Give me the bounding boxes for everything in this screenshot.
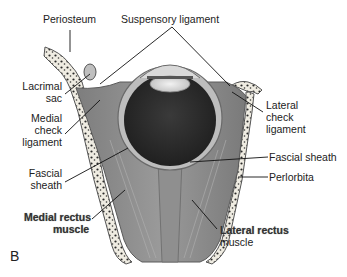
- label-lateral-rectus-line1: Lateral rectus: [220, 224, 289, 236]
- label-fascial-sheath-left-line1: Fascial: [16, 167, 62, 179]
- eyeball: [118, 65, 222, 170]
- label-lateral-check-line1: Lateral: [266, 99, 298, 111]
- label-periosteum: Periosteum: [43, 13, 96, 25]
- label-suspensory-ligament: Suspensory ligament: [121, 13, 219, 25]
- orbit-diagram: Periosteum Suspensory ligament Lacrimal …: [0, 0, 347, 277]
- label-lacrimal-sac-line2: sac: [22, 92, 62, 104]
- label-medial-rectus-line2: muscle: [53, 223, 89, 235]
- label-lacrimal-sac-line1: Lacrimal: [22, 80, 62, 92]
- label-medial-check-line1: Medial: [16, 112, 62, 124]
- label-lateral-rectus-line2: muscle: [220, 236, 253, 248]
- label-medial-check-line2: check: [16, 124, 62, 136]
- optic-nerve: [158, 160, 182, 262]
- label-fascial-sheath-left-line2: sheath: [16, 179, 62, 191]
- panel-label: B: [10, 248, 19, 264]
- label-medial-check-line3: ligament: [16, 136, 62, 148]
- label-lateral-check-line2: check: [266, 111, 293, 123]
- label-periorbita: Perlorbita: [269, 171, 314, 183]
- label-fascial-sheath-right: Fascial sheath: [269, 151, 337, 163]
- label-medial-rectus-line1: Medial rectus: [24, 211, 91, 223]
- label-lateral-check-line3: ligament: [266, 123, 306, 135]
